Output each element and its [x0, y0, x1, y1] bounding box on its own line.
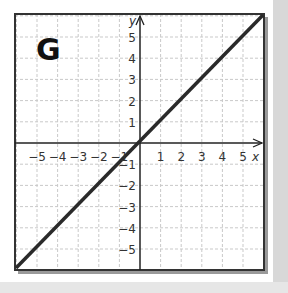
x-tick-labels: −5−4−3−2−112345	[28, 150, 247, 164]
x-tick-label: 1	[157, 150, 165, 164]
x-tick-label: 4	[219, 150, 227, 164]
x-tick-label: −2	[90, 150, 108, 164]
y-tick-label: 5	[128, 31, 136, 45]
x-tick-label: −4	[49, 150, 67, 164]
y-tick-labels: 54321−1−2−3−4−5	[118, 31, 136, 257]
panel-letter: G	[36, 32, 61, 67]
graph-svg: G y x −5−4−3−2−112345 54321−1−2−3−4−5	[0, 0, 288, 293]
y-tick-label: 1	[128, 116, 136, 130]
y-tick-label: −1	[118, 158, 136, 172]
x-axis-label: x	[251, 150, 260, 164]
y-tick-label: −3	[118, 201, 136, 215]
y-tick-label: 3	[128, 73, 136, 87]
y-tick-label: −5	[118, 243, 136, 257]
y-tick-label: −4	[118, 222, 136, 236]
y-tick-label: 4	[128, 52, 136, 66]
x-tick-label: −3	[69, 150, 87, 164]
y-tick-label: 2	[128, 95, 136, 109]
x-tick-label: 5	[239, 150, 247, 164]
y-tick-label: −2	[118, 179, 136, 193]
x-tick-label: −5	[28, 150, 46, 164]
x-tick-label: 2	[177, 150, 185, 164]
y-axis-label: y	[128, 14, 137, 28]
x-tick-label: 3	[198, 150, 206, 164]
